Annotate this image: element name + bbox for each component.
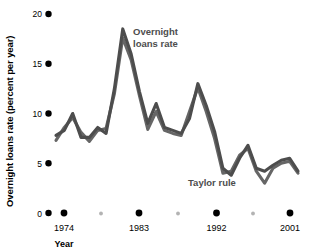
- overnight-loans-rate-chart: Overnight loans rate (percent per year) …: [0, 0, 316, 250]
- y-tick-label-0: 0: [37, 209, 42, 219]
- plot-area: [56, 29, 298, 183]
- annotation-overnight-line2: loans rate: [133, 38, 178, 49]
- y-tick-dot-10: [45, 110, 51, 116]
- y-tick-dot-5: [45, 160, 51, 166]
- annotation-taylor-line1: Taylor rule: [188, 177, 236, 188]
- x-axis-ticks: [61, 210, 294, 217]
- y-tick-label-20: 20: [33, 9, 43, 19]
- annotation-taylor-rule: Taylor rule: [188, 177, 236, 188]
- x-tick-dot-1992: [213, 210, 220, 217]
- y-tick-label-5: 5: [37, 159, 42, 169]
- x-axis-tick-labels: 1974 1983 1992 2001: [54, 223, 300, 233]
- y-tick-dot-0: [45, 210, 51, 216]
- x-tick-dot-1974: [61, 210, 68, 217]
- x-tick-label-2001: 2001: [280, 223, 300, 233]
- x-tick-label-1974: 1974: [54, 223, 74, 233]
- series-line-taylor-rule: [56, 38, 298, 183]
- x-tick-dot-2001: [287, 210, 294, 217]
- y-tick-label-10: 10: [33, 109, 43, 119]
- x-tick-dot-minor-1986: [176, 212, 180, 216]
- x-axis-title: Year: [54, 239, 74, 249]
- y-tick-dot-20: [45, 11, 51, 17]
- y-axis-title-text: Overnight loans rate (percent per year): [4, 36, 15, 207]
- x-tick-dot-1983: [136, 210, 143, 217]
- annotation-overnight-line1: Overnight: [133, 26, 179, 37]
- x-tick-label-1983: 1983: [129, 223, 149, 233]
- annotation-overnight-loans-rate: Overnight loans rate: [133, 26, 179, 49]
- y-tick-label-15: 15: [33, 59, 43, 69]
- y-tick-dot-15: [45, 61, 51, 67]
- y-axis-ticks: 20 15 10 5 0: [33, 9, 52, 219]
- y-axis-title: Overnight loans rate (percent per year): [4, 36, 15, 207]
- x-tick-dot-minor-1977: [99, 212, 103, 216]
- x-tick-label-1992: 1992: [206, 223, 226, 233]
- series-line-overnight-loans-rate: [56, 29, 298, 175]
- x-tick-dot-minor-1995: [251, 212, 255, 216]
- chart-container: Overnight loans rate (percent per year) …: [0, 0, 316, 250]
